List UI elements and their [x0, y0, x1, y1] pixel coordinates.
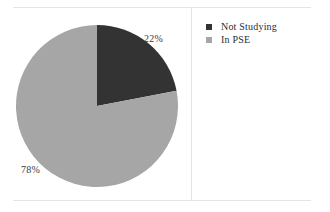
pie-svg	[16, 25, 178, 187]
legend-swatch-icon-not-studying	[206, 24, 212, 30]
plot-legend-divider	[191, 7, 192, 201]
slice-data-label-in-pse: 78%	[21, 164, 40, 175]
legend-label-not-studying: Not Studying	[221, 21, 277, 33]
plot-area: 22% 78%	[0, 0, 191, 212]
legend-swatch-icon-in-pse	[206, 37, 212, 43]
legend-label-in-pse: In PSE	[221, 34, 250, 46]
legend-item-not-studying[interactable]: Not Studying	[206, 21, 316, 33]
chart-legend: Not Studying In PSE	[206, 21, 316, 47]
legend-item-in-pse[interactable]: In PSE	[206, 34, 316, 46]
pie-chart-figure: 22% 78% Not Studying In PSE	[0, 0, 330, 212]
slice-data-label-not-studying: 22%	[144, 33, 163, 44]
